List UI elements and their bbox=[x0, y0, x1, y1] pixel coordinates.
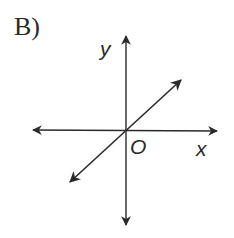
y-axis-label: y bbox=[100, 38, 111, 59]
origin-label: O bbox=[130, 136, 146, 157]
x-axis-label: x bbox=[196, 138, 207, 159]
coordinate-plane bbox=[0, 0, 234, 238]
